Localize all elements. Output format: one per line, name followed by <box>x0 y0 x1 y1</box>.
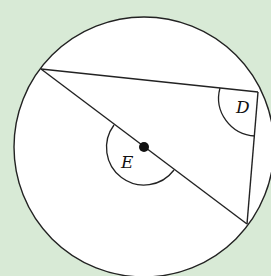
circle-diagram: D E <box>0 0 271 276</box>
label-e: E <box>120 152 134 172</box>
label-d: D <box>235 97 250 117</box>
center-point <box>139 142 149 152</box>
